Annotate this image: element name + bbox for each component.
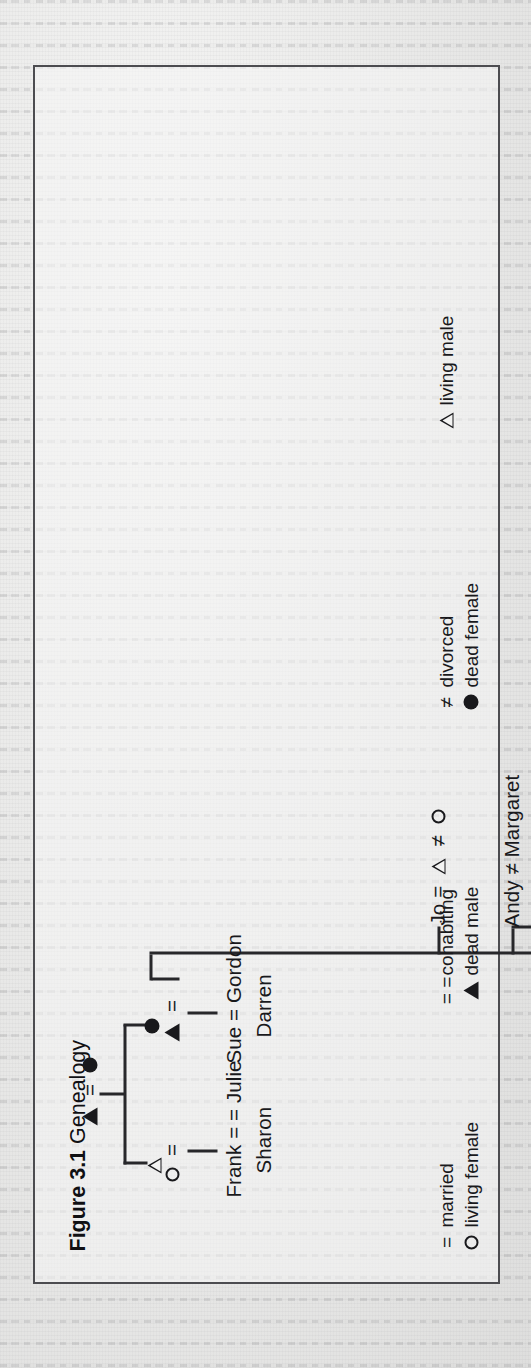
legend-column-1: = married living female <box>433 1121 483 1251</box>
legend-label-dead-female: dead female <box>460 582 482 687</box>
figure-frame-border: Figure 3.1 Genealogy = = F <box>33 65 500 1284</box>
equals-icon: = <box>435 1233 457 1251</box>
dead-male-icon <box>463 981 478 999</box>
legend-item-cohabiting: = = cohabiting <box>433 886 458 999</box>
living-female-icon <box>464 1233 478 1251</box>
legend-label-cohabiting: cohabiting <box>435 888 457 975</box>
legend-layer: = married living female = = cohabiting d… <box>39 72 494 1277</box>
not-equals-icon: ≠ <box>435 693 457 711</box>
line-andy-sib-stub <box>511 928 514 954</box>
legend-item-living-male: living male <box>433 315 458 429</box>
legend-item-living-female: living female <box>458 1121 483 1251</box>
legend-column-4: living male <box>433 315 458 429</box>
double-equals-icon: = = <box>435 981 457 999</box>
legend-item-dead-female: dead female <box>458 582 483 711</box>
legend-label-living-female: living female <box>460 1121 482 1227</box>
genealogy-diagram-stage: Figure 3.1 Genealogy = = F <box>39 72 494 1277</box>
legend-label-married: married <box>435 1163 457 1227</box>
legend-item-married: = married <box>433 1121 458 1251</box>
living-male-icon <box>439 411 453 429</box>
legend-label-divorced: divorced <box>435 615 457 687</box>
legend-item-divorced: ≠ divorced <box>433 582 458 711</box>
legend-label-living-male: living male <box>435 315 457 405</box>
legend-column-3: ≠ divorced dead female <box>433 582 483 711</box>
legend-label-dead-male: dead male <box>460 886 482 975</box>
dead-female-icon <box>463 693 478 711</box>
node-union-andy-margaret: Andy ≠ Margaret <box>499 774 523 927</box>
legend-column-2: = = cohabiting dead male <box>433 886 483 999</box>
legend-item-dead-male: dead male <box>458 886 483 999</box>
